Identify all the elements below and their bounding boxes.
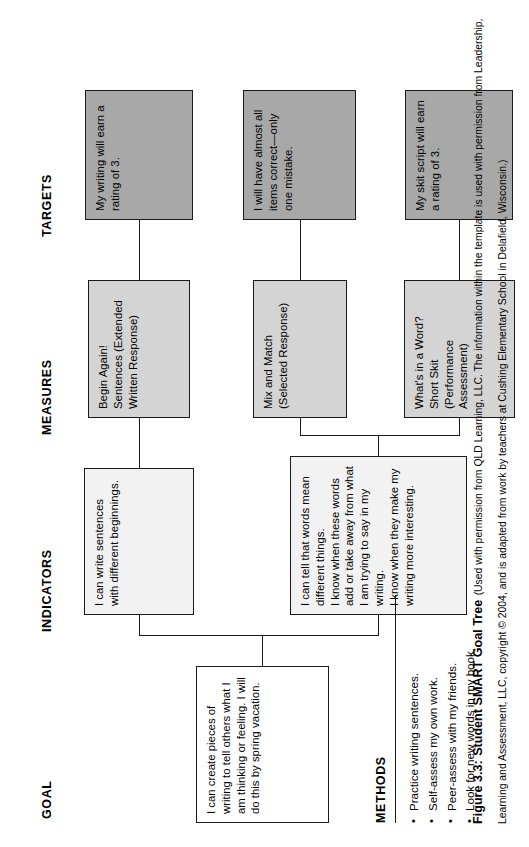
goal-node: I can create pieces of writing to tell o… [196,666,329,823]
methods-item-label: Practice writing sentences. [407,673,420,811]
methods-item-label: Peer-assess with my friends. [445,663,458,811]
connector-measure2-to-target2 [300,219,301,281]
connector-measure1-to-target1 [139,219,140,281]
column-header-indicators: INDICATORS [40,549,54,632]
figure-number: Figure 3.3: [471,760,485,824]
column-header-measures: MEASURES [40,359,54,435]
target-node-1: My writing will earn a rating of 3. [85,90,193,220]
connector-goal-to-indicator-1 [139,614,140,636]
indicator-node-2: I can tell that words mean different thi… [290,456,467,615]
measure-node-1: Begin Again! Sentences (Extended Written… [88,280,190,418]
connector-indicator2-trunk [378,435,379,457]
rotated-figure-canvas: GOAL INDICATORS MEASURES TARGETS I can c… [0,0,529,847]
figure-caption-strip: Figure 3.3: Student SMART Goal Tree (Use… [461,0,529,847]
target-node-2: I will have almost all items correct—onl… [243,90,356,220]
methods-divider [395,595,396,823]
methods-list-item: • Peer-assess with my friends. [443,595,462,823]
bullet-icon: • [423,819,441,823]
methods-list-item: • Practice writing sentences. [405,595,424,823]
connector-goal-vertical [139,635,379,636]
methods-title: METHODS [374,595,388,823]
measure-node-2: Mix and Match (Selected Response) [253,280,347,418]
bullet-icon: • [405,819,423,823]
column-header-targets: TARGETS [40,174,54,237]
indicator-node-1: I can write sentences with different beg… [84,468,194,615]
figure-title: Student SMART Goal Tree [471,600,485,756]
connector-indicator1-to-measure1 [139,417,140,469]
connector-indicator2-to-measure2 [300,417,301,436]
methods-list-item: • Self-assess my own work. [424,595,443,823]
bullet-icon: • [442,819,460,823]
connector-goal-trunk [262,635,263,667]
connector-indicator2-vertical [300,435,460,436]
column-header-goal: GOAL [40,780,54,819]
methods-item-label: Self-assess my own work. [426,677,439,811]
